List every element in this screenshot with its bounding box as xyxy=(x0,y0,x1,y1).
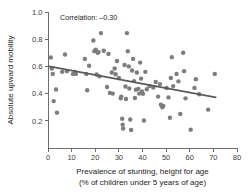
data-point xyxy=(105,85,109,89)
data-point xyxy=(171,84,175,88)
data-point xyxy=(115,59,119,63)
data-point xyxy=(154,80,158,84)
data-point xyxy=(63,52,67,56)
data-point xyxy=(143,70,147,74)
data-point xyxy=(122,63,126,67)
data-point xyxy=(83,57,87,61)
data-point xyxy=(99,31,103,35)
data-point xyxy=(139,76,143,80)
y-tick-label-0.4: 0.4 xyxy=(32,89,42,98)
data-point xyxy=(125,31,129,35)
data-point xyxy=(135,70,139,74)
data-point xyxy=(158,82,162,86)
data-point xyxy=(128,117,132,121)
data-point xyxy=(142,118,146,122)
data-point xyxy=(60,70,64,74)
x-tick-label-60: 60 xyxy=(186,153,194,162)
data-point xyxy=(112,66,116,70)
y-tick-label-0.6: 0.6 xyxy=(32,62,42,71)
y-tick-label-0.8: 0.8 xyxy=(32,35,42,44)
data-point xyxy=(96,50,100,54)
data-point xyxy=(55,110,59,114)
y-axis-title: Absolute upward mobility xyxy=(6,36,15,125)
data-point xyxy=(124,97,128,101)
data-point xyxy=(85,88,89,92)
x-axis: 01020304050607080 xyxy=(46,148,241,162)
data-point xyxy=(206,107,210,111)
data-point xyxy=(156,94,160,98)
data-point xyxy=(176,79,180,83)
data-point xyxy=(111,91,115,95)
y-tick-label-1.0: 1.0 xyxy=(32,8,42,17)
data-point xyxy=(51,99,55,103)
data-point xyxy=(102,49,106,53)
data-point xyxy=(129,128,133,132)
data-point xyxy=(170,55,174,59)
data-point xyxy=(127,64,131,68)
data-point xyxy=(138,60,142,64)
data-point xyxy=(121,126,125,130)
chart-canvas: 0.20.40.60.81.0 01020304050607080 Correl… xyxy=(0,0,250,193)
data-point xyxy=(192,86,196,90)
data-point xyxy=(183,96,187,100)
data-point xyxy=(166,95,170,99)
data-point xyxy=(120,117,124,121)
data-point xyxy=(181,51,185,55)
data-point xyxy=(141,92,145,96)
x-tick-label-0: 0 xyxy=(46,153,50,162)
data-point xyxy=(126,49,130,53)
data-point xyxy=(136,87,140,91)
y-axis: 0.20.40.60.81.0 xyxy=(32,8,48,148)
data-point xyxy=(213,72,217,76)
data-point xyxy=(131,57,135,61)
x-tick-label-30: 30 xyxy=(115,153,123,162)
data-point xyxy=(51,72,55,76)
data-point xyxy=(161,104,165,108)
data-point xyxy=(188,127,192,131)
data-point xyxy=(174,72,178,76)
data-point xyxy=(182,69,186,73)
y-tick-label-0.2: 0.2 xyxy=(32,117,42,126)
x-tick-label-40: 40 xyxy=(138,153,146,162)
data-point xyxy=(127,86,131,90)
data-point xyxy=(113,72,117,76)
data-point xyxy=(133,96,137,100)
x-axis-title: Prevalence of stunting, height for age xyxy=(76,167,209,176)
data-point xyxy=(120,122,124,126)
data-point xyxy=(169,76,173,80)
data-point xyxy=(87,64,91,68)
data-point xyxy=(130,68,134,72)
x-tick-label-10: 10 xyxy=(67,153,75,162)
scatter-chart: 0.20.40.60.81.0 01020304050607080 Correl… xyxy=(0,0,250,193)
x-tick-label-80: 80 xyxy=(233,153,241,162)
data-point xyxy=(106,52,110,56)
x-tick-label-50: 50 xyxy=(162,153,170,162)
x-axis-subtitle: (% of children under 5 years of age) xyxy=(79,178,207,187)
correlation-annotation: Correlation: –0.30 xyxy=(60,13,117,22)
data-point xyxy=(49,55,53,59)
data-point xyxy=(194,77,198,81)
x-tick-label-20: 20 xyxy=(91,153,99,162)
data-point xyxy=(110,70,114,74)
data-point xyxy=(91,38,95,42)
x-tick-label-70: 70 xyxy=(209,153,217,162)
data-point xyxy=(119,94,123,98)
data-point xyxy=(54,87,58,91)
data-point xyxy=(168,116,172,120)
data-point xyxy=(123,84,127,88)
data-point xyxy=(178,112,182,116)
